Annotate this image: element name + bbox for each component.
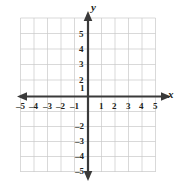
x-tick-label--2: –2 (56, 102, 65, 111)
y-tick-label--5: –5 (75, 167, 84, 176)
x-tick-label--1: –1 (70, 102, 79, 111)
y-tick-label-1: 1 (80, 84, 85, 93)
coordinate-plane: x y –5 –4 –3 –2 –1 1 2 3 4 5 5 4 3 2 1 –… (0, 0, 189, 186)
coordinate-plane-graphic (0, 0, 189, 186)
y-tick-label-4: 4 (79, 45, 84, 54)
x-tick-label--4: –4 (29, 102, 38, 111)
y-tick-label--2: –2 (75, 122, 84, 131)
x-tick-label-1: 1 (99, 102, 104, 111)
x-tick-label-4: 4 (139, 102, 144, 111)
y-tick-label-3: 3 (79, 60, 84, 69)
x-tick-label-3: 3 (126, 102, 131, 111)
y-axis-label: y (91, 2, 96, 13)
x-axis (17, 92, 171, 101)
y-tick-label--4: –4 (75, 152, 84, 161)
x-tick-label--5: –5 (16, 102, 25, 111)
x-tick-label--3: –3 (43, 102, 52, 111)
x-axis-arrow-left (17, 92, 27, 101)
y-axis-arrow-down (84, 171, 93, 181)
x-tick-label-2: 2 (112, 102, 117, 111)
x-axis-label: x (168, 89, 174, 100)
y-tick-label-5: 5 (79, 30, 84, 39)
x-tick-label-5: 5 (153, 102, 158, 111)
y-tick-label--3: –3 (75, 137, 84, 146)
